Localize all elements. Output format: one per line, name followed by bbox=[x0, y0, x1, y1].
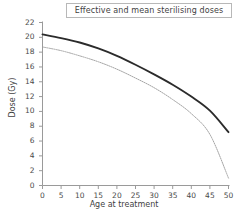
y-axis-tick-label: 0 bbox=[19, 181, 35, 190]
y-axis-tick-label: 4 bbox=[19, 151, 35, 160]
y-axis-tick-label: 12 bbox=[19, 92, 35, 101]
x-axis-tick-label: 45 bbox=[202, 191, 218, 200]
x-axis-tick-label: 15 bbox=[90, 191, 106, 200]
y-axis-tick-label: 10 bbox=[19, 106, 35, 115]
y-axis-tick-label: 14 bbox=[19, 77, 35, 86]
x-axis-tick-label: 5 bbox=[53, 191, 69, 200]
x-axis-tick-label: 50 bbox=[221, 191, 237, 200]
y-axis-tick-label: 2 bbox=[19, 166, 35, 175]
x-axis-tick-label: 30 bbox=[146, 191, 162, 200]
y-axis-tick-label: 16 bbox=[19, 62, 35, 71]
x-axis-tick-label: 0 bbox=[35, 191, 51, 200]
y-axis-tick-label: 6 bbox=[19, 136, 35, 145]
x-axis-tick-label: 25 bbox=[128, 191, 144, 200]
y-axis-tick-label: 18 bbox=[19, 47, 35, 56]
x-axis-title: Age at treatment bbox=[0, 200, 248, 209]
chart-figure: Effective and mean sterilising doses 024… bbox=[0, 0, 248, 216]
data-series-line-1 bbox=[43, 47, 229, 178]
y-axis-tick-label: 22 bbox=[19, 18, 35, 27]
axes-layer bbox=[39, 22, 230, 190]
series-layer bbox=[43, 34, 229, 178]
chart-plot-area bbox=[0, 0, 248, 216]
x-axis-tick-label: 10 bbox=[72, 191, 88, 200]
x-axis-tick-label: 40 bbox=[183, 191, 199, 200]
y-axis-tick-label: 20 bbox=[19, 32, 35, 41]
y-axis-title: Dose (Gy) bbox=[8, 58, 17, 138]
x-axis-tick-label: 20 bbox=[109, 191, 125, 200]
y-axis-tick-label: 8 bbox=[19, 121, 35, 130]
x-axis-tick-label: 35 bbox=[165, 191, 181, 200]
data-series-line-0 bbox=[43, 34, 229, 132]
